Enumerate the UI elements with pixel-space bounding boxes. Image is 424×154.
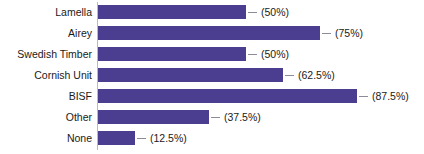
bar-row: None(12.5%) (0, 131, 424, 145)
category-label: Swedish Timber (0, 47, 92, 61)
bar-row: Cornish Unit(62.5%) (0, 68, 424, 82)
category-label: BISF (0, 89, 92, 103)
bar-row: BISF(87.5%) (0, 89, 424, 103)
bar-row: Airey(75%) (0, 26, 424, 40)
bar (98, 26, 320, 40)
leader-line (211, 117, 220, 118)
bar (98, 110, 209, 124)
bar-chart: Lamella(50%)Airey(75%)Swedish Timber(50%… (0, 0, 424, 154)
value-label: (62.5%) (298, 68, 335, 82)
bar (98, 131, 135, 145)
value-label: (37.5%) (224, 110, 261, 124)
leader-line (248, 12, 257, 13)
category-label: Cornish Unit (0, 68, 92, 82)
bar (98, 68, 283, 82)
leader-line (322, 33, 331, 34)
bar (98, 5, 246, 19)
value-label: (50%) (261, 5, 289, 19)
category-label: Airey (0, 26, 92, 40)
bar (98, 47, 246, 61)
value-label: (75%) (335, 26, 363, 40)
leader-line (285, 75, 294, 76)
leader-line (137, 138, 146, 139)
value-label: (87.5%) (372, 89, 409, 103)
plot-area: Lamella(50%)Airey(75%)Swedish Timber(50%… (0, 0, 424, 154)
bar (98, 89, 357, 103)
bar-row: Other(37.5%) (0, 110, 424, 124)
value-label: (50%) (261, 47, 289, 61)
bar-row: Lamella(50%) (0, 5, 424, 19)
category-label: Other (0, 110, 92, 124)
category-label: Lamella (0, 5, 92, 19)
bar-row: Swedish Timber(50%) (0, 47, 424, 61)
category-label: None (0, 131, 92, 145)
leader-line (359, 96, 368, 97)
value-label: (12.5%) (150, 131, 187, 145)
leader-line (248, 54, 257, 55)
